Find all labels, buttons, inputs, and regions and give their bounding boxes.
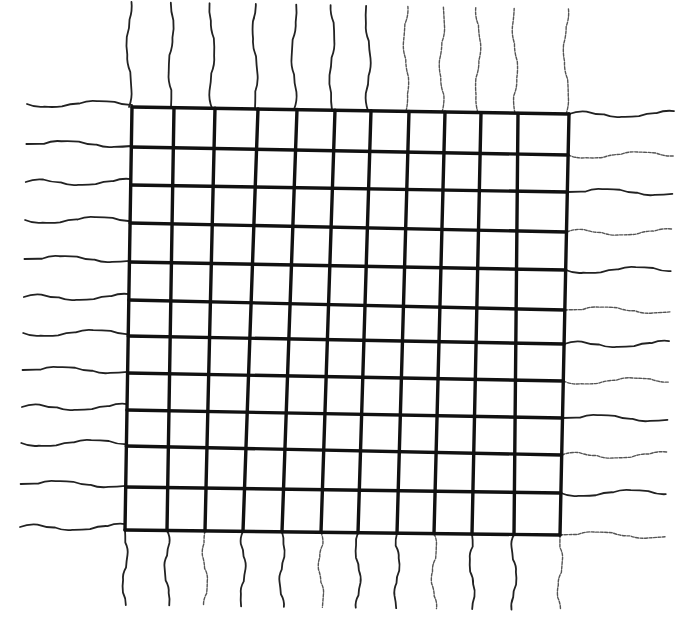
bottom-lead-wire	[470, 534, 475, 609]
horizontal-grid-line	[129, 262, 565, 270]
left-lead-wire	[24, 256, 129, 262]
vertical-grid-line	[205, 108, 215, 531]
right-lead-wire	[562, 415, 667, 421]
left-lead-wire	[24, 294, 129, 300]
vertical-grid-line	[282, 110, 297, 532]
horizontal-grid-line	[132, 107, 569, 114]
left-lead-wire	[21, 481, 126, 487]
vertical-grid-line	[434, 112, 445, 534]
top-lead-wire	[169, 3, 174, 108]
left-lead-wire	[20, 524, 125, 530]
right-lead-wire	[560, 532, 665, 538]
horizontal-grid-line	[131, 185, 568, 192]
top-lead-wire	[126, 2, 131, 107]
horizontal-grid-line	[128, 373, 564, 381]
bottom-lead-wire	[123, 530, 128, 605]
horizontal-grid-line	[128, 336, 564, 344]
vertical-grid-line	[560, 114, 569, 535]
vertical-grid-line	[321, 110, 335, 532]
bottom-lead-wire	[202, 531, 207, 606]
left-lead-wire	[27, 101, 132, 107]
vertical-grid-lines	[125, 107, 569, 535]
left-lead-wire	[21, 440, 126, 446]
right-lead-wire	[567, 189, 672, 195]
left-lead-wire	[25, 217, 130, 223]
horizontal-grid-line	[129, 300, 565, 310]
left-leads	[20, 101, 132, 530]
horizontal-grid-line	[126, 487, 561, 493]
top-lead-wire	[329, 5, 334, 110]
bottom-lead-wire	[164, 530, 169, 605]
vertical-grid-line	[397, 111, 409, 533]
top-lead-wire	[291, 5, 296, 110]
wire-grid-diagram	[0, 0, 685, 626]
right-lead-wire	[566, 267, 671, 273]
vertical-grid-line	[514, 113, 518, 534]
horizontal-grid-line	[125, 530, 560, 535]
left-lead-wire	[23, 330, 128, 336]
bottom-lead-wire	[394, 533, 399, 608]
vertical-grid-line	[167, 108, 174, 531]
bottom-lead-wire	[279, 532, 284, 607]
right-lead-wire	[567, 229, 672, 235]
top-lead-wire	[403, 6, 408, 111]
top-lead-wire	[476, 8, 481, 113]
top-lead-wire	[512, 8, 517, 113]
bottom-lead-wire	[431, 534, 436, 609]
horizontal-grid-lines	[125, 107, 569, 535]
bottom-lead-wire	[356, 533, 361, 608]
right-lead-wire	[561, 490, 666, 496]
top-lead-wire	[209, 3, 214, 108]
right-leads	[560, 111, 674, 539]
left-lead-wire	[22, 404, 127, 410]
bottom-leads	[123, 530, 563, 610]
horizontal-grid-line	[131, 147, 568, 155]
left-lead-wire	[23, 367, 128, 373]
horizontal-grid-line	[126, 446, 561, 455]
vertical-grid-line	[243, 109, 258, 531]
top-lead-wire	[563, 9, 568, 114]
left-lead-wire	[26, 179, 131, 185]
bottom-lead-wire	[557, 535, 562, 610]
right-lead-wire	[568, 152, 673, 158]
vertical-grid-line	[358, 111, 371, 533]
top-leads	[126, 2, 568, 114]
right-lead-wire	[569, 111, 674, 117]
top-lead-wire	[253, 4, 258, 109]
horizontal-grid-line	[127, 410, 563, 418]
top-lead-wire	[366, 6, 371, 111]
right-lead-wire	[564, 341, 669, 347]
bottom-lead-wire	[241, 531, 246, 606]
bottom-lead-wire	[318, 532, 323, 607]
vertical-grid-line	[472, 113, 481, 534]
bottom-lead-wire	[511, 535, 516, 610]
right-lead-wire	[562, 452, 667, 458]
horizontal-grid-line	[130, 223, 566, 232]
left-lead-wire	[26, 141, 131, 147]
right-lead-wire	[563, 378, 668, 384]
vertical-grid-line	[125, 107, 132, 530]
top-lead-wire	[439, 7, 444, 112]
right-lead-wire	[565, 307, 670, 313]
